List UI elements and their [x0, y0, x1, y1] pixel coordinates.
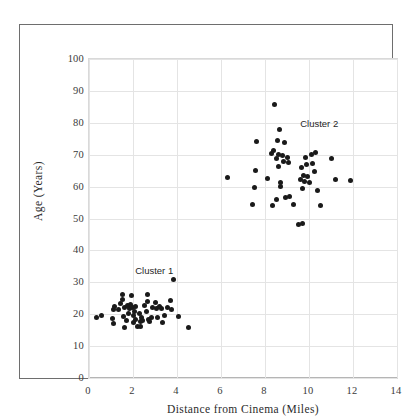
y-tick-label: 50: [38, 212, 84, 223]
data-point: [315, 188, 320, 193]
data-point: [303, 155, 308, 160]
data-point: [254, 139, 259, 144]
y-tick-label: 20: [38, 308, 84, 319]
data-point: [310, 161, 315, 166]
data-point: [252, 185, 257, 190]
data-point: [116, 307, 121, 312]
data-point: [186, 325, 191, 330]
gridline-horizontal: [89, 123, 397, 124]
data-point: [133, 304, 138, 309]
data-point: [318, 203, 323, 208]
plot-area: Cluster 1Cluster 2: [88, 58, 398, 379]
x-tick-label: 10: [288, 385, 328, 396]
data-point: [272, 102, 277, 107]
data-point: [99, 313, 104, 318]
y-tick-label: 80: [38, 116, 84, 127]
data-point: [122, 325, 127, 330]
data-point: [120, 292, 125, 297]
y-tick-label: 100: [38, 53, 84, 64]
data-point: [265, 176, 270, 181]
data-point: [159, 306, 164, 311]
x-tick-label: 12: [332, 385, 372, 396]
data-point: [307, 180, 312, 185]
data-point: [253, 168, 258, 173]
data-point: [138, 324, 143, 329]
chart-frame: Age (Years) 0102030405060708090100 Clust…: [19, 24, 393, 379]
data-point: [145, 292, 150, 297]
y-tick-label: 10: [38, 340, 84, 351]
x-tick-label: 8: [244, 385, 284, 396]
data-point: [270, 203, 275, 208]
data-point: [286, 160, 291, 165]
data-point: [176, 314, 181, 319]
gridline-horizontal: [89, 91, 397, 92]
cluster-annotation: Cluster 1: [135, 265, 173, 276]
data-point: [162, 313, 167, 318]
y-tick-label: 70: [38, 148, 84, 159]
y-tick-label: 90: [38, 84, 84, 95]
data-point: [287, 194, 292, 199]
gridline-vertical: [397, 59, 398, 378]
data-point: [124, 318, 129, 323]
x-axis-title: Distance from Cinema (Miles): [88, 403, 398, 415]
data-point: [277, 127, 282, 132]
data-point: [329, 156, 334, 161]
data-point: [275, 138, 280, 143]
data-point: [171, 277, 176, 282]
gridline-horizontal: [89, 282, 397, 283]
gridline-horizontal: [89, 59, 397, 60]
gridline-horizontal: [89, 219, 397, 220]
x-tick-label: 4: [156, 385, 196, 396]
data-point: [155, 315, 160, 320]
data-point: [169, 307, 174, 312]
data-point: [291, 202, 296, 207]
data-point: [274, 197, 279, 202]
data-point: [111, 321, 116, 326]
data-point: [147, 319, 152, 324]
cluster-annotation: Cluster 2: [300, 118, 338, 129]
y-tick-label: 30: [38, 276, 84, 287]
scatter-chart: Age (Years) 0102030405060708090100 Clust…: [0, 0, 412, 419]
data-point: [300, 186, 305, 191]
y-tick-label: 40: [38, 244, 84, 255]
data-point: [312, 169, 317, 174]
data-point: [140, 318, 145, 323]
gridline-horizontal: [89, 346, 397, 347]
gridline-horizontal: [89, 250, 397, 251]
x-tick-label: 6: [200, 385, 240, 396]
data-point: [333, 177, 338, 182]
data-point: [282, 140, 287, 145]
x-tick-label: 14: [376, 385, 412, 396]
data-point: [300, 221, 305, 226]
y-tick-label: 0: [38, 372, 84, 383]
data-point: [276, 164, 281, 169]
y-axis-tick-labels: 0102030405060708090100: [34, 58, 84, 379]
gridline-horizontal: [89, 378, 397, 379]
gridline-horizontal: [89, 187, 397, 188]
data-point: [145, 299, 150, 304]
x-axis-tick-labels: 02468101214: [88, 385, 398, 401]
x-tick-label: 2: [112, 385, 152, 396]
data-point: [299, 165, 304, 170]
data-point: [144, 309, 149, 314]
data-point: [120, 297, 125, 302]
data-point: [160, 320, 165, 325]
data-point: [168, 298, 173, 303]
y-tick-label: 60: [38, 180, 84, 191]
data-point: [225, 175, 230, 180]
data-point: [250, 202, 255, 207]
x-tick-label: 0: [68, 385, 108, 396]
data-point: [149, 315, 154, 320]
gridline-horizontal: [89, 155, 397, 156]
